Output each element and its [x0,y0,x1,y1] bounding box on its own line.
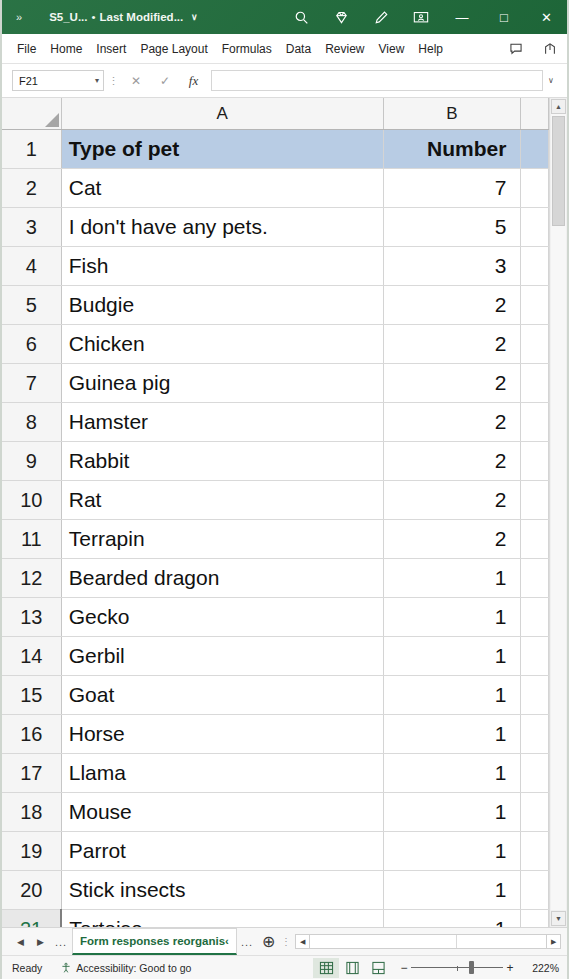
row-header[interactable]: 17 [2,754,61,793]
cell-c21[interactable] [521,910,549,928]
zoom-slider-thumb[interactable] [469,961,474,974]
row-header[interactable]: 4 [2,247,61,286]
horizontal-scroll-thumb[interactable] [310,935,457,948]
cell-c3[interactable] [521,208,549,247]
share-icon[interactable] [533,38,567,60]
ribbon-tab-page-layout[interactable]: Page Layout [133,38,214,60]
cell-b4[interactable]: 3 [383,247,521,286]
cell-b2[interactable]: 7 [383,169,521,208]
cell-a6[interactable]: Chicken [61,325,383,364]
cell-c16[interactable] [521,715,549,754]
cell-a7[interactable]: Guinea pig [61,364,383,403]
sheet-list-ellipsis-right[interactable]: ... [237,936,257,948]
cell-c19[interactable] [521,832,549,871]
row-header[interactable]: 13 [2,598,61,637]
row-header[interactable]: 2 [2,169,61,208]
row-header[interactable]: 8 [2,403,61,442]
expand-formula-bar-icon[interactable]: ∨ [543,76,559,85]
overflow-chevrons-icon[interactable]: » [2,12,27,23]
cell-b6[interactable]: 2 [383,325,521,364]
vertical-scroll-track[interactable] [551,114,566,910]
title-dropdown-caret-icon[interactable]: ∨ [191,12,198,22]
cell-b19[interactable]: 1 [383,832,521,871]
zoom-in-button[interactable]: + [503,961,517,975]
cell-a12[interactable]: Bearded dragon [61,559,383,598]
zoom-slider[interactable] [411,962,503,974]
row-header[interactable]: 1 [2,130,61,169]
ribbon-tab-data[interactable]: Data [279,38,318,60]
row-header[interactable]: 18 [2,793,61,832]
cell-a13[interactable]: Gecko [61,598,383,637]
cell-b3[interactable]: 5 [383,208,521,247]
ribbon-tab-help[interactable]: Help [411,38,450,60]
row-header[interactable]: 10 [2,481,61,520]
tab-bar-grip[interactable]: ⋮ [279,939,293,944]
column-header-a[interactable]: A [61,98,383,130]
normal-view-icon[interactable] [313,958,339,978]
cell-b13[interactable]: 1 [383,598,521,637]
page-break-icon[interactable] [365,958,391,978]
cell-a4[interactable]: Fish [61,247,383,286]
cell-c4[interactable] [521,247,549,286]
cell-a10[interactable]: Rat [61,481,383,520]
comments-icon[interactable] [499,38,533,60]
row-header[interactable]: 11 [2,520,61,559]
cell-b7[interactable]: 2 [383,364,521,403]
column-header-b[interactable]: B [383,98,521,130]
cell-b8[interactable]: 2 [383,403,521,442]
row-header[interactable]: 19 [2,832,61,871]
cell-b11[interactable]: 2 [383,520,521,559]
row-header[interactable]: 15 [2,676,61,715]
cell-c20[interactable] [521,871,549,910]
cell-c8[interactable] [521,403,549,442]
row-header[interactable]: 9 [2,442,61,481]
ribbon-tab-formulas[interactable]: Formulas [215,38,279,60]
cell-a16[interactable]: Horse [61,715,383,754]
accessibility-status[interactable]: Accessibility: Good to go [60,962,191,974]
row-header[interactable]: 21 [2,910,61,928]
cell-b12[interactable]: 1 [383,559,521,598]
select-all-corner-button[interactable] [2,98,61,130]
cell-a9[interactable]: Rabbit [61,442,383,481]
document-title[interactable]: S5_U... • Last Modified... ∨ [49,11,198,23]
search-icon[interactable] [281,0,321,34]
cell-b18[interactable]: 1 [383,793,521,832]
ribbon-tab-home[interactable]: Home [43,38,89,60]
cell-b1[interactable]: Number [383,130,521,169]
cell-a2[interactable]: Cat [61,169,383,208]
page-layout-icon[interactable] [339,958,365,978]
cell-a1[interactable]: Type of pet [61,130,383,169]
scroll-up-button[interactable]: ▲ [551,99,566,114]
cancel-entry-button[interactable]: ✕ [122,70,149,92]
row-header[interactable]: 12 [2,559,61,598]
cell-c10[interactable] [521,481,549,520]
ribbon-tab-review[interactable]: Review [318,38,371,60]
cell-a19[interactable]: Parrot [61,832,383,871]
cell-c18[interactable] [521,793,549,832]
ribbon-tab-view[interactable]: View [372,38,412,60]
scroll-left-button[interactable]: ◀ [296,935,310,948]
row-header[interactable]: 16 [2,715,61,754]
vertical-scroll-thumb[interactable] [552,116,565,226]
cell-a11[interactable]: Terrapin [61,520,383,559]
scroll-down-button[interactable]: ▼ [551,911,566,926]
formula-input[interactable] [211,70,543,91]
row-header[interactable]: 3 [2,208,61,247]
zoom-out-button[interactable]: − [397,961,411,975]
next-sheet-button[interactable]: ▶ [30,932,50,952]
row-header[interactable]: 5 [2,286,61,325]
minimize-button[interactable]: — [441,0,483,34]
confirm-entry-button[interactable]: ✓ [151,70,178,92]
horizontal-scroll-track[interactable] [310,935,546,948]
cell-b16[interactable]: 1 [383,715,521,754]
row-header[interactable]: 6 [2,325,61,364]
previous-sheet-button[interactable]: ◀ [10,932,30,952]
cell-a15[interactable]: Goat [61,676,383,715]
cell-c12[interactable] [521,559,549,598]
cell-c9[interactable] [521,442,549,481]
cell-c2[interactable] [521,169,549,208]
sheet-list-ellipsis-left[interactable]: ... [50,936,72,948]
pen-icon[interactable] [361,0,401,34]
cell-a8[interactable]: Hamster [61,403,383,442]
row-header[interactable]: 20 [2,871,61,910]
